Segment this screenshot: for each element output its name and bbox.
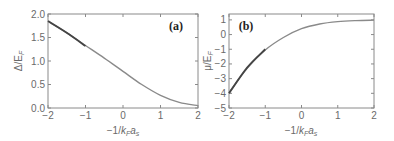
x-tick-label: 1 xyxy=(158,110,164,121)
panel-a-tag: (a) xyxy=(169,19,183,33)
panel-b: −5−4−3−2−101 −2−1012 (b) μ/EF −1/kFas xyxy=(202,14,377,137)
x-tick-label: 0 xyxy=(299,110,305,121)
panel-a-ylabel: Δ/EF xyxy=(13,50,25,71)
panel-b-xlabel: −1/kFas xyxy=(285,125,318,137)
y-tick-label: −1 xyxy=(215,44,227,55)
panel-a: 0.00.51.01.52.0 −2−1012 (a) Δ/EF −1/kFas xyxy=(13,9,201,138)
bec-asymptote-curve xyxy=(48,21,86,46)
y-tick-label: 0.5 xyxy=(31,79,45,90)
panel-b-ylabel: μ/EF xyxy=(202,51,214,71)
panel-a-curves xyxy=(48,21,198,106)
x-tick-label: 1 xyxy=(335,110,341,121)
x-tick-label: 2 xyxy=(195,110,201,121)
x-tick-label: −2 xyxy=(42,110,54,121)
y-tick-label: −3 xyxy=(215,73,227,84)
bec-asymptote-curve xyxy=(229,49,265,93)
figure: 0.00.51.01.52.0 −2−1012 (a) Δ/EF −1/kFas… xyxy=(0,0,394,141)
y-tick-label: 2.0 xyxy=(31,9,45,20)
x-tick-label: 0 xyxy=(120,110,126,121)
x-tick-label: −1 xyxy=(80,110,92,121)
y-tick-label: −4 xyxy=(215,88,227,99)
y-tick-label: 0 xyxy=(220,29,226,40)
x-tick-label: 2 xyxy=(371,110,377,121)
y-tick-label: 1 xyxy=(220,14,226,25)
x-tick-label: −2 xyxy=(223,110,235,121)
panel-b-tag: (b) xyxy=(239,19,254,33)
x-tick-label: −1 xyxy=(260,110,272,121)
y-tick-label: −2 xyxy=(215,58,227,69)
panel-a-xlabel: −1/kFas xyxy=(107,125,140,137)
y-tick-label: 1.0 xyxy=(31,56,45,67)
y-tick-label: 1.5 xyxy=(31,32,45,43)
full-curve xyxy=(48,22,198,106)
